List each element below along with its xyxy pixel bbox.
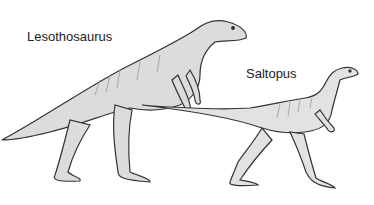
lesothosaurus-figure <box>2 20 246 182</box>
dinosaur-drawing <box>0 0 374 205</box>
dinosaur-illustration: Lesothosaurus Saltopus <box>0 0 374 205</box>
